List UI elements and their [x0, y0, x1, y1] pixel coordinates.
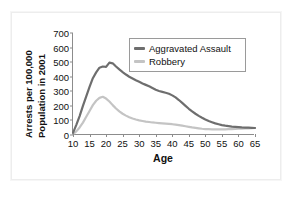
x-axis-tick-label: 20 [101, 138, 112, 149]
y-axis-title-line-1: Arrests per 100,000 [23, 50, 34, 138]
x-axis-tick-label: 30 [134, 138, 145, 149]
line-chart-figure: Arrests per 100,000 Population in 2001 0… [11, 12, 279, 178]
y-axis-tick-mark [70, 76, 73, 77]
y-axis-title: Arrests per 100,000 Population in 2001 [11, 12, 45, 152]
x-axis-tick-label: 35 [150, 138, 161, 149]
x-axis-tick-mark [156, 134, 157, 137]
legend-item-aggravated-assault: Aggravated Assault [134, 42, 240, 55]
chart-screenshot: Arrests per 100,000 Population in 2001 0… [0, 0, 292, 199]
x-axis-tick-label: 10 [68, 138, 79, 149]
x-axis-tick-mark [123, 134, 124, 137]
x-axis-tick-label: 55 [217, 138, 228, 149]
y-axis-tick-label: 100 [43, 115, 69, 126]
x-axis-tick-label: 25 [117, 138, 128, 149]
x-axis-tick-label: 45 [184, 138, 195, 149]
x-axis-tick-mark [205, 134, 206, 137]
y-axis-tick-label: 600 [43, 42, 69, 53]
x-axis-tick-mark [90, 134, 91, 137]
x-axis-tick-mark [238, 134, 239, 137]
x-axis-tick-label: 15 [84, 138, 95, 149]
y-axis-tick-mark [70, 120, 73, 121]
x-axis-tick-mark [222, 134, 223, 137]
x-axis-tick-mark [189, 134, 190, 137]
y-axis-tick-label: 700 [43, 28, 69, 39]
legend-color-swatch-icon [134, 60, 145, 63]
chart-legend: Aggravated Assault Robbery [129, 38, 246, 72]
legend-label: Aggravated Assault [149, 43, 231, 54]
y-axis-tick-label: 500 [43, 57, 69, 68]
legend-label: Robbery [149, 56, 185, 67]
y-axis-tick-label: 0 [43, 130, 69, 141]
series-line-robbery [73, 97, 255, 134]
y-axis-tick-mark [70, 33, 73, 34]
legend-color-swatch-icon [134, 47, 145, 50]
x-axis-tick-mark [106, 134, 107, 137]
y-axis-tick-mark [70, 105, 73, 106]
x-axis-tick-label: 60 [233, 138, 244, 149]
legend-item-robbery: Robbery [134, 55, 240, 68]
y-axis-tick-label: 300 [43, 86, 69, 97]
x-axis-tick-mark [172, 134, 173, 137]
x-axis-tick-mark [255, 134, 256, 137]
x-axis-tick-label: 50 [200, 138, 211, 149]
y-axis-tick-mark [70, 47, 73, 48]
x-axis-tick-mark [73, 134, 74, 137]
x-axis-tick-label: 65 [250, 138, 261, 149]
y-axis-tick-mark [70, 62, 73, 63]
y-axis-tick-mark [70, 91, 73, 92]
y-axis-tick-label: 400 [43, 71, 69, 82]
x-axis-tick-mark [139, 134, 140, 137]
y-axis-tick-label: 200 [43, 100, 69, 111]
x-axis-tick-label: 40 [167, 138, 178, 149]
x-axis-title: Age [72, 152, 254, 164]
